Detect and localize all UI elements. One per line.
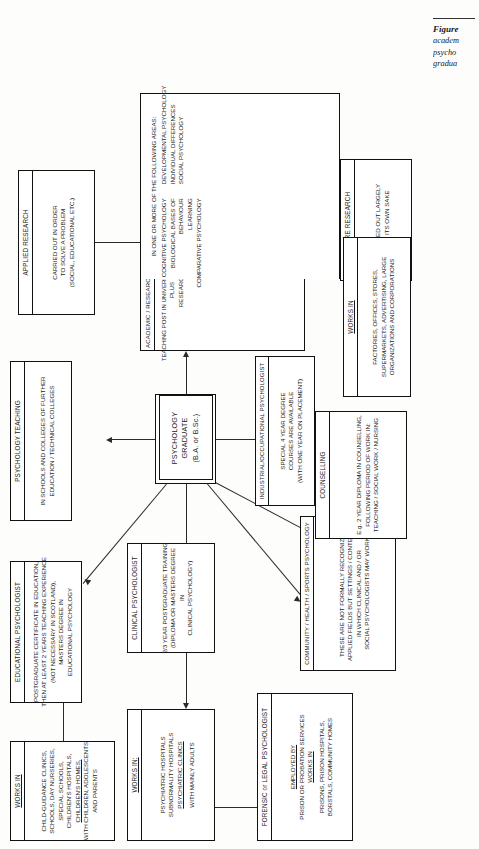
node-header: PSYCHOLOGY TEACHING (11, 362, 25, 520)
body-line: ORGANIZATIONS AND CORPORATIONS (388, 259, 397, 376)
body-line: PSYCHIATRIC CLINICS (176, 741, 185, 808)
node-forensic-legal[interactable]: FORENSIC or LEGAL PSYCHOLOGIST EMPLOYED … (257, 693, 353, 841)
area-item: COMPARATIVE PSYCHOLOGY (195, 198, 204, 287)
body-line: (WITH ONE YEAR ON PLACEMENT) (296, 379, 305, 483)
body-line: CHILD-GUIDANCE CLINICS, (40, 750, 49, 831)
body-line: WITH MAINLY ADULTS (184, 742, 197, 807)
node-header: COUNSELLING (316, 412, 330, 538)
areas-column-right: DEVELOPMENTAL PSYCHOLOGY INDIVIDUAL DIFF… (160, 86, 203, 185)
center-title: PSYCHOLOGY GRADUATE (B.A. or B.Sc.) (170, 412, 201, 464)
caption-line: academ (433, 35, 479, 46)
caption-line: Figure (433, 23, 479, 35)
body-line: CHILDREN'S HOMES, (74, 759, 83, 822)
body-line: FOLLOWING PERIOD OF WORK IN: (364, 423, 373, 526)
node-counselling[interactable]: COUNSELLING E.g. 2 YEAR DIPLOMA IN COUNS… (315, 411, 407, 539)
node-body: THESE ARE NOT FORMALLY RECOGNIZED APPLIE… (314, 517, 395, 670)
node-body: 2/3 YEAR POSTGRADUATE TRAINING (DIPLOMA … (142, 544, 214, 652)
body-line: FACTORIES, OFFICES, STORES, (371, 269, 380, 365)
body-line: SCHOOLS, DAY NURSERIES, (48, 748, 57, 833)
node-community-health-sports[interactable]: COMMUNITY / HEALTH / SPORTS PSYCHOLOGY T… (300, 516, 396, 671)
caption-rule (433, 18, 475, 19)
center-line-3: (B.A. or B.Sc.) (191, 414, 200, 463)
figure-caption: Figure academ psycho gradua (433, 18, 479, 69)
connector-educational-to-works (63, 703, 64, 741)
body-line: E.g. 2 YEAR DIPLOMA IN COUNSELLING, (355, 415, 364, 535)
connector-center-to-academic (186, 356, 187, 394)
node-body: E.g. 2 YEAR DIPLOMA IN COUNSELLING, FOLL… (330, 412, 406, 538)
body-line: EDUCATION / TECHNICAL COLLEGES (48, 386, 57, 497)
body-line: AND PARENTS (91, 769, 100, 813)
node-header: WORKS IN (11, 742, 25, 840)
node-body: IN ONE OR MORE OF THE FOLLOWING AREAS: C… (141, 94, 339, 279)
body-line: POSTGRADUATE CERTIFICATE IN EDUCATION, (32, 562, 41, 702)
area-item: BIOLOGICAL BASES OF (169, 198, 178, 287)
area-item: LEARNING (186, 198, 195, 287)
body-line: IN (178, 595, 187, 601)
node-header: WORKS IN (344, 238, 358, 396)
body-line: IN SCHOOLS AND COLLEGES OF FURTHER (39, 376, 48, 505)
body-line: TO SOLVE A PROBLEM (59, 209, 68, 277)
node-body: POSTGRADUATE CERTIFICATE IN EDUCATION, T… (25, 562, 81, 702)
node-body: FACTORIES, OFFICES, STORES, SUPERMARKETS… (358, 238, 410, 396)
area-item: SOCIAL PSYCHOLOGY (177, 86, 186, 185)
body-line: MASTERS DEGREE IN (57, 599, 66, 665)
center-inner-frame: PSYCHOLOGY GRADUATE (B.A. or B.Sc.) (159, 396, 213, 481)
body-line: COURSES ARE AVAILABLE (287, 392, 296, 471)
body-line: THESE ARE NOT FORMALLY RECOGNIZED (338, 530, 347, 657)
node-psychology-graduate[interactable]: PSYCHOLOGY GRADUATE (B.A. or B.Sc.) (155, 394, 216, 484)
node-body: CARRIED OUT IN ORDER TO SOLVE A PROBLEM … (33, 171, 94, 314)
node-header: FORENSIC or LEGAL PSYCHOLOGIST (258, 694, 272, 840)
body-line: WORKS IN (306, 751, 315, 782)
areas-column-left: COGNITIVE PSYCHOLOGY BIOLOGICAL BASES OF… (160, 198, 203, 287)
body-line: SPECIAL SCHOOLS, (57, 761, 66, 821)
connector-center-to-teaching (112, 439, 156, 440)
node-body: CHILD-GUIDANCE CLINICS, SCHOOLS, DAY NUR… (25, 742, 114, 840)
body-line: (DIPLOMA OR MASTERS DEGREE (169, 548, 178, 648)
node-academic-research-areas[interactable]: IN ONE OR MORE OF THE FOLLOWING AREAS: C… (140, 93, 340, 279)
node-educational-psychologist[interactable]: EDUCATIONAL PSYCHOLOGIST POSTGRADUATE CE… (10, 561, 82, 703)
diagram-page: WORKS IN CHILD-GUIDANCE CLINICS, SCHOOLS… (0, 0, 479, 849)
body-line: EMPLOYED BY (289, 745, 298, 789)
arrowhead-academic (183, 351, 189, 357)
node-clinical-works-in[interactable]: WORKS IN: PSYCHIATRIC HOSPITALS SUBNORMA… (127, 709, 215, 841)
center-line-1: PSYCHOLOGY (170, 412, 179, 464)
body-line: PRISONS, PRISON HOSPITALS, (315, 721, 327, 814)
connector-clinical-to-works (186, 653, 187, 703)
rotated-diagram-canvas: WORKS IN CHILD-GUIDANCE CLINICS, SCHOOLS… (0, 0, 479, 849)
body-line: CHILDREN'S HOSPITALS, (65, 754, 74, 829)
node-header: INDUSTRIAL/OCCUPATIONAL PSYCHOLOGIST (256, 357, 269, 505)
node-educational-works-in[interactable]: WORKS IN CHILD-GUIDANCE CLINICS, SCHOOLS… (10, 741, 115, 841)
connector-academic-to-applied (95, 242, 140, 243)
node-industrial-occupational[interactable]: INDUSTRIAL/OCCUPATIONAL PSYCHOLOGIST SPE… (255, 356, 315, 506)
node-body: IN SCHOOLS AND COLLEGES OF FURTHER EDUCA… (25, 362, 71, 520)
caption-line: gradua (433, 58, 479, 69)
areas-lead: IN ONE OR MORE OF THE FOLLOWING AREAS: (149, 117, 159, 257)
connector-clinical-to-forensic (215, 807, 257, 808)
body-line: IN WHICH CLINICAL AND / OR (355, 550, 364, 637)
node-body: EMPLOYED BY PRISON OR PROBATION SERVICES… (272, 694, 352, 840)
node-header: APPLIED RESEARCH (19, 171, 33, 314)
node-header: COMMUNITY / HEALTH / SPORTS PSYCHOLOGY (301, 517, 314, 670)
node-applied-research[interactable]: APPLIED RESEARCH CARRIED OUT IN ORDER TO… (18, 170, 95, 315)
body-line: SOCIAL PSYCHOLOGISTS MAY WORK (363, 537, 372, 650)
body-line: THEN AT LEAST 2 YEARS TEACHING EXPERIENC… (40, 557, 49, 707)
area-item: DEVELOPMENTAL PSYCHOLOGY (160, 86, 169, 185)
node-header: EDUCATIONAL PSYCHOLOGIST (11, 562, 25, 702)
caption-line: psycho (433, 47, 479, 58)
area-item: BEHAVIOUR (177, 198, 186, 287)
arrowhead-educational (83, 577, 91, 585)
body-line: EDUCATIONAL PSYCHOLOGY (66, 588, 75, 676)
body-line: WITH CHILDREN, ADOLESCENTS (82, 742, 91, 840)
node-body: SPECIAL 4 YEAR DEGREE COURSES ARE AVAILA… (269, 357, 314, 505)
body-line: SUBNORMALITY HOSPITALS (167, 733, 176, 818)
body-line: (NOT NECESSARY IN SCOTLAND), (49, 581, 58, 683)
body-line: CARRIED OUT IN ORDER (51, 205, 60, 280)
body-line: CLINICAL PSYCHOLOGY) (186, 561, 195, 636)
node-psychology-teaching[interactable]: PSYCHOLOGY TEACHING IN SCHOOLS AND COLLE… (10, 361, 72, 521)
body-line: SUPERMARKETS, ADVERTISING, LARGE (380, 257, 389, 378)
arrowhead-teaching (106, 437, 112, 443)
center-line-2: GRADUATE (180, 418, 189, 459)
node-clinical-psychologist[interactable]: CLINICAL PSYCHOLOGIST 2/3 YEAR POSTGRADU… (127, 543, 215, 653)
node-industrial-works-in[interactable]: WORKS IN FACTORIES, OFFICES, STORES, SUP… (343, 237, 411, 397)
body-line: TEACHING / SOCIAL WORK / NURSING (372, 418, 381, 532)
